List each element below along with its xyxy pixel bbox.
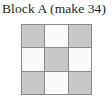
quilt-patch-r3c1-shaded (22, 72, 44, 94)
quilt-patch-r2c1-light (22, 48, 44, 70)
block-diagram-page: Block A (make 34) (0, 0, 112, 109)
quilt-patch-r3c3-shaded (69, 72, 91, 94)
quilt-patch-r1c1-shaded (22, 25, 44, 47)
quilt-patch-r2c3-light (69, 48, 91, 70)
quilt-patch-r2c2-shaded (45, 48, 67, 70)
quilt-patch-r1c2-light (45, 25, 67, 47)
block-caption: Block A (make 34) (2, 0, 112, 20)
quilt-patch-r3c2-light (45, 72, 67, 94)
quilt-block-grid (21, 24, 92, 95)
quilt-patch-r1c3-shaded (69, 25, 91, 47)
